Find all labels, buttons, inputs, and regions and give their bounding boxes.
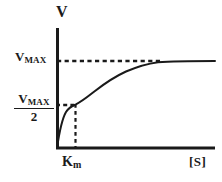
vmax-tick-label-main: V: [15, 49, 24, 64]
km-tick-label-main: K: [62, 154, 73, 169]
michaelis-menten-figure: V VMAX VMAX 2 Km [S]: [0, 0, 222, 182]
halfmax-numerator-subscript: MAX: [28, 97, 50, 107]
halfmax-numerator-main: V: [18, 91, 27, 106]
saturation-curve: [57, 61, 215, 148]
km-tick-label-subscript: m: [73, 159, 81, 170]
halfmax-denominator: 2: [14, 109, 54, 125]
vmax-tick-label: VMAX: [15, 50, 46, 65]
halfmax-tick-label: VMAX 2: [14, 92, 54, 125]
halfmax-numerator: VMAX: [14, 92, 54, 107]
vmax-tick-label-subscript: MAX: [24, 55, 46, 65]
x-axis-title: [S]: [189, 155, 206, 168]
y-axis-title: V: [56, 4, 68, 20]
km-tick-label: Km: [62, 155, 81, 170]
